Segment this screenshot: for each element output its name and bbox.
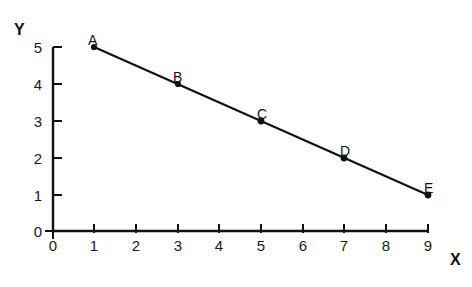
data-point-label-e: E bbox=[424, 181, 433, 195]
x-tick-label-0: 0 bbox=[43, 238, 63, 253]
y-tick-label-1: 1 bbox=[26, 188, 42, 203]
x-axis-label: X bbox=[450, 252, 461, 268]
y-axis-label: Y bbox=[14, 22, 25, 38]
y-tick-label-2: 2 bbox=[26, 151, 42, 166]
data-point-label-b: B bbox=[173, 70, 182, 84]
x-tick-label-6: 6 bbox=[293, 238, 313, 253]
y-tick-label-0: 0 bbox=[26, 224, 42, 239]
x-tick-label-1: 1 bbox=[84, 238, 104, 253]
y-tick-label-5: 5 bbox=[26, 40, 42, 55]
x-tick-label-8: 8 bbox=[376, 238, 396, 253]
data-point-label-c: C bbox=[257, 107, 267, 121]
data-point-label-a: A bbox=[88, 33, 97, 47]
x-tick-label-2: 2 bbox=[126, 238, 146, 253]
x-tick-label-3: 3 bbox=[168, 238, 188, 253]
plot-area bbox=[0, 0, 472, 287]
data-point-label-d: D bbox=[340, 144, 350, 158]
x-tick-label-4: 4 bbox=[209, 238, 229, 253]
x-tick-label-5: 5 bbox=[251, 238, 271, 253]
y-tick-label-3: 3 bbox=[26, 114, 42, 129]
x-tick-label-7: 7 bbox=[334, 238, 354, 253]
y-tick-label-4: 4 bbox=[26, 77, 42, 92]
line-chart: Y X 5 4 3 2 1 0 0 1 2 3 4 5 6 7 8 9 A B … bbox=[0, 0, 472, 287]
x-tick-label-9: 9 bbox=[418, 238, 438, 253]
